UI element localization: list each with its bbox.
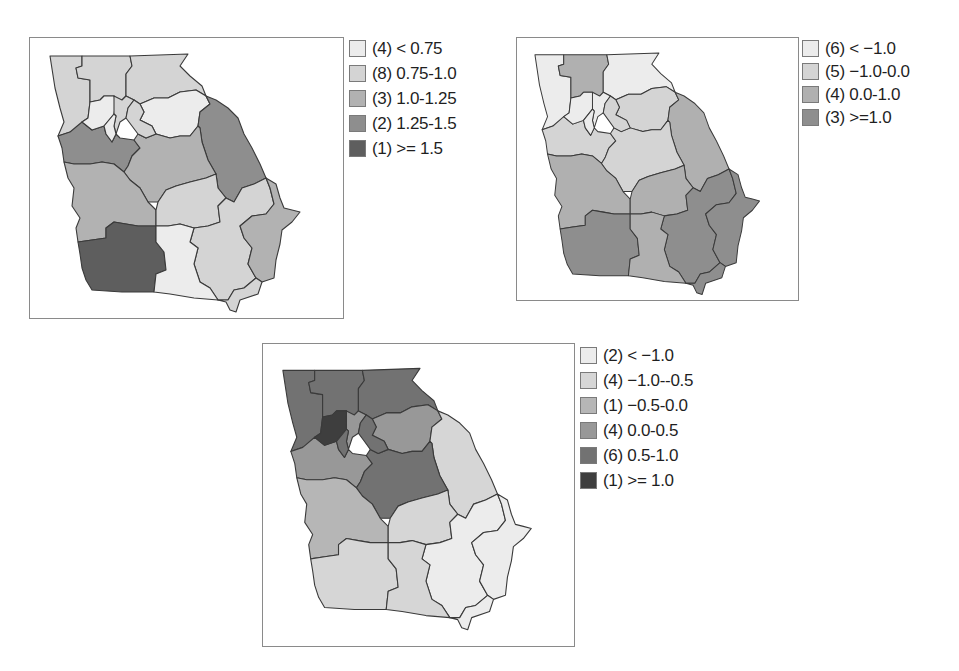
legend-label: (2) < −1.0	[603, 346, 674, 366]
legend-label: (4) −1.0--0.5	[603, 371, 693, 391]
legend-swatch	[349, 90, 366, 107]
legend-item: (8) 0.75-1.0	[349, 64, 456, 83]
legend-item: (4) 0.0-0.5	[580, 421, 693, 440]
map-frame-a	[29, 37, 344, 319]
legend-item: (1) >= 1.0	[580, 471, 693, 490]
legend-item: (2) < −1.0	[580, 346, 693, 365]
legend-swatch	[802, 109, 819, 126]
legend-label: (3) >=1.0	[825, 108, 891, 128]
legend-item: (4) < 0.75	[349, 39, 456, 58]
legend-label: (6) 0.5-1.0	[603, 446, 678, 466]
legend-swatch	[349, 140, 366, 157]
georgia-map-c	[263, 344, 576, 648]
legend-item: (4) −1.0--0.5	[580, 371, 693, 390]
legend-item: (3) 1.0-1.25	[349, 89, 456, 108]
legend-item: (1) >= 1.5	[349, 139, 456, 158]
legend-item: (6) 0.5-1.0	[580, 446, 693, 465]
legend-swatch	[802, 63, 819, 80]
legend-swatch	[349, 115, 366, 132]
georgia-map-b	[517, 38, 800, 302]
legend-swatch	[802, 86, 819, 103]
legend-label: (2) 1.25-1.5	[372, 114, 456, 134]
legend-item: (5) −1.0-0.0	[802, 62, 910, 81]
legend-item: (6) < −1.0	[802, 39, 910, 58]
legend-swatch	[580, 472, 597, 489]
legend-swatch	[580, 447, 597, 464]
legend-swatch	[580, 372, 597, 389]
legend-swatch	[802, 40, 819, 57]
legend-item: (4) 0.0-1.0	[802, 85, 910, 104]
map-frame-c	[262, 343, 575, 647]
legend-item: (2) 1.25-1.5	[349, 114, 456, 133]
legend-swatch	[349, 65, 366, 82]
legend-label: (1) >= 1.0	[603, 471, 674, 491]
legend-label: (4) < 0.75	[372, 39, 442, 59]
legend-label: (4) 0.0-1.0	[825, 85, 900, 105]
legend-label: (1) >= 1.5	[372, 139, 443, 159]
legend-label: (8) 0.75-1.0	[372, 64, 456, 84]
map-frame-b	[516, 37, 799, 301]
legend-item: (1) −0.5-0.0	[580, 396, 693, 415]
legend-label: (3) 1.0-1.25	[372, 89, 456, 109]
legend-label: (4) 0.0-0.5	[603, 421, 678, 441]
legend-swatch	[580, 347, 597, 364]
legend-c: (2) < −1.0(4) −1.0--0.5(1) −0.5-0.0(4) 0…	[580, 346, 693, 496]
georgia-map-a	[30, 38, 345, 320]
legend-swatch	[580, 397, 597, 414]
legend-swatch	[349, 40, 366, 57]
legend-label: (5) −1.0-0.0	[825, 62, 910, 82]
legend-label: (6) < −1.0	[825, 39, 896, 59]
legend-label: (1) −0.5-0.0	[603, 396, 688, 416]
legend-swatch	[580, 422, 597, 439]
legend-item: (3) >=1.0	[802, 108, 910, 127]
legend-a: (4) < 0.75(8) 0.75-1.0(3) 1.0-1.25(2) 1.…	[349, 39, 456, 164]
legend-b: (6) < −1.0(5) −1.0-0.0(4) 0.0-1.0(3) >=1…	[802, 39, 910, 131]
